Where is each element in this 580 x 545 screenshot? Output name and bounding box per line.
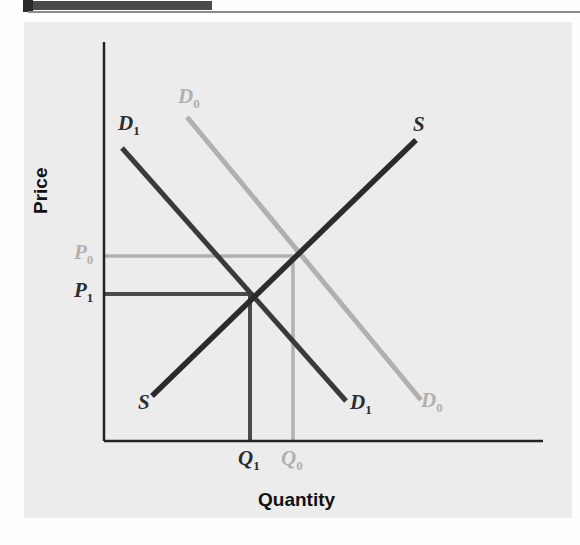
label-demand-new-top-text: D bbox=[118, 111, 133, 135]
label-price-original-sub: 0 bbox=[87, 252, 94, 267]
demand-curve-new bbox=[122, 148, 346, 401]
label-price-original-text: P bbox=[74, 240, 87, 264]
label-quantity-original-sub: 0 bbox=[296, 458, 303, 473]
label-quantity-original-text: Q bbox=[281, 446, 296, 470]
label-demand-original-bottom-sub: 0 bbox=[436, 400, 443, 415]
label-quantity-new: Q1 bbox=[238, 446, 260, 474]
x-axis-title: Quantity bbox=[258, 489, 335, 511]
supply-curve bbox=[152, 140, 416, 396]
label-price-original: P0 bbox=[74, 240, 93, 268]
label-price-new-text: P bbox=[74, 278, 87, 302]
label-demand-original-top: D0 bbox=[178, 84, 200, 112]
label-demand-original-top-text: D bbox=[178, 84, 193, 108]
label-price-new-sub: 1 bbox=[87, 290, 94, 305]
label-demand-new-bottom: D1 bbox=[350, 390, 372, 418]
label-quantity-new-text: Q bbox=[238, 446, 253, 470]
label-quantity-original: Q0 bbox=[281, 446, 303, 474]
label-price-new: P1 bbox=[74, 278, 93, 306]
label-supply-bottom: S bbox=[138, 390, 150, 415]
label-demand-new-bottom-text: D bbox=[350, 390, 365, 414]
y-axis-title: Price bbox=[30, 168, 52, 214]
label-demand-new-top: D1 bbox=[118, 111, 140, 139]
label-demand-original-top-sub: 0 bbox=[193, 96, 200, 111]
page-background: Price Quantity D0 D0 D1 D1 S S P0 P1 Q1 … bbox=[0, 0, 580, 545]
label-quantity-new-sub: 1 bbox=[253, 458, 260, 473]
label-demand-new-bottom-sub: 1 bbox=[365, 402, 372, 417]
label-demand-original-bottom-text: D bbox=[421, 388, 436, 412]
label-supply-top: S bbox=[413, 112, 425, 137]
label-demand-new-top-sub: 1 bbox=[133, 123, 140, 138]
label-demand-original-bottom: D0 bbox=[421, 388, 443, 416]
